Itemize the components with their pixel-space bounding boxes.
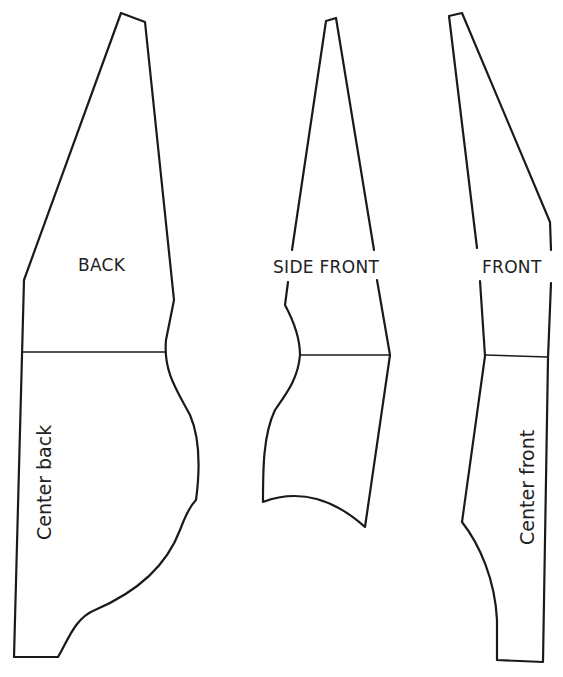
side-front-lower-outline xyxy=(263,280,390,527)
back-piece-outline xyxy=(14,13,198,657)
center-front-label: Center front xyxy=(516,430,538,545)
front-waistline xyxy=(485,355,548,357)
side-front-piece: SIDE FRONT xyxy=(263,18,390,527)
back-piece: BACK Center back xyxy=(14,13,198,657)
back-label: BACK xyxy=(78,255,126,275)
center-back-label: Center back xyxy=(33,425,55,540)
front-label: FRONT xyxy=(482,257,542,277)
pattern-diagram: BACK Center back SIDE FRONT FRONT Center… xyxy=(0,0,563,677)
side-front-label: SIDE FRONT xyxy=(273,257,379,277)
front-upper-outline xyxy=(449,13,551,250)
side-front-upper-outline xyxy=(292,18,374,250)
front-piece: FRONT Center front xyxy=(449,13,551,662)
